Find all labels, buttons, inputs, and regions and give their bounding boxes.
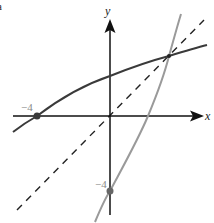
intersection-point: [167, 54, 171, 58]
x-axis-label: x: [204, 109, 211, 123]
y-axis-label: y: [104, 4, 111, 18]
corner-label: a: [0, 0, 2, 12]
graph-canvas: a x y −4 −4: [0, 0, 214, 223]
x-intercept-point: [34, 113, 41, 120]
y-intercept-label: −4: [95, 178, 107, 190]
y-intercept-point: [107, 188, 114, 195]
x-intercept-label: −4: [21, 101, 33, 113]
